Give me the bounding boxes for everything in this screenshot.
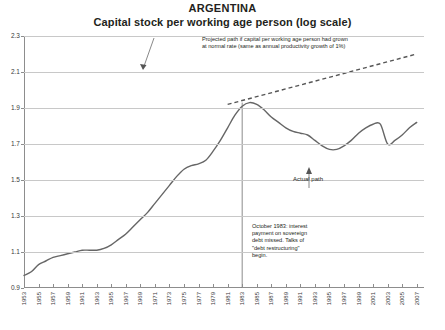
x-axis-tick-label: 1973 <box>166 292 172 305</box>
x-axis-tick-label: 1961 <box>79 292 85 305</box>
gridline <box>24 216 424 217</box>
x-axis-tick-label: 1963 <box>94 292 100 305</box>
x-axis-tick-label: 1987 <box>268 292 274 305</box>
x-axis-tick <box>315 284 316 288</box>
x-axis-tick <box>286 284 287 288</box>
y-axis-tick <box>21 144 24 145</box>
x-axis-tick-label: 1969 <box>137 292 143 305</box>
y-axis-tick <box>21 72 24 73</box>
x-axis-tick <box>155 284 156 288</box>
x-axis-tick <box>300 284 301 288</box>
y-axis-tick <box>21 36 24 37</box>
y-axis-tick <box>21 252 24 253</box>
y-axis-tick-label: 1.7 <box>0 140 20 147</box>
x-axis-tick <box>82 284 83 288</box>
series-actual-path <box>24 103 417 276</box>
x-axis-tick <box>402 284 403 288</box>
plot-area: 0.91.11.31.51.71.92.12.3 <box>24 36 424 288</box>
y-axis-tick <box>21 108 24 109</box>
annotation-default-event: October 1983: interest payment on sovere… <box>252 223 310 259</box>
x-axis-tick <box>126 284 127 288</box>
x-axis-tick-label: 2001 <box>370 292 376 305</box>
annotation-actual-path: Actual path <box>293 176 345 183</box>
x-axis-tick-label: 1995 <box>326 292 332 305</box>
x-axis-tick <box>373 284 374 288</box>
gridline <box>24 108 424 109</box>
x-axis-labels: 1953195519571959196119631965196719691971… <box>24 290 424 328</box>
x-axis-tick <box>359 284 360 288</box>
x-axis-tick <box>184 284 185 288</box>
y-axis-tick-label: 0.9 <box>0 284 20 291</box>
x-axis-tick <box>169 284 170 288</box>
gridline <box>24 144 424 145</box>
gridline <box>24 252 424 253</box>
gridline <box>24 180 424 181</box>
x-axis-tick <box>329 284 330 288</box>
x-axis-tick-label: 1983 <box>239 292 245 305</box>
chart-root: ARGENTINA Capital stock per working age … <box>0 0 445 330</box>
projected-leader-line <box>143 38 154 69</box>
x-axis-tick-label: 1971 <box>152 292 158 305</box>
x-axis-tick <box>53 284 54 288</box>
x-axis-tick <box>271 284 272 288</box>
x-axis-tick-label: 1979 <box>210 292 216 305</box>
x-axis-tick <box>242 284 243 288</box>
x-axis-tick <box>111 284 112 288</box>
gridline <box>24 72 424 73</box>
x-axis-tick <box>257 284 258 288</box>
page-title: ARGENTINA <box>0 2 445 15</box>
series-layer <box>24 36 424 288</box>
y-axis-tick-label: 1.1 <box>0 248 20 255</box>
x-axis-tick <box>39 284 40 288</box>
chart-subtitle: Capital stock per working age person (lo… <box>0 15 445 29</box>
x-axis-tick <box>228 284 229 288</box>
x-axis-tick-label: 1967 <box>123 292 129 305</box>
x-axis-tick <box>199 284 200 288</box>
x-axis-tick-label: 1993 <box>312 292 318 305</box>
x-axis-tick-label: 1991 <box>297 292 303 305</box>
x-axis-tick <box>344 284 345 288</box>
x-axis-tick-label: 1975 <box>181 292 187 305</box>
series-projected-path <box>228 54 417 104</box>
x-axis-tick-label: 2003 <box>385 292 391 305</box>
x-axis-tick-label: 1989 <box>283 292 289 305</box>
x-axis-tick <box>213 284 214 288</box>
x-axis-tick-label: 1985 <box>254 292 260 305</box>
x-axis-tick-label: 1997 <box>341 292 347 305</box>
x-axis-tick <box>24 284 25 288</box>
projected-leader-arrowhead <box>140 64 147 70</box>
x-axis-tick-label: 1953 <box>21 292 27 305</box>
annotation-projected-path: Projected path if capital per working ag… <box>202 36 352 50</box>
y-axis-tick <box>21 180 24 181</box>
x-axis-tick <box>68 284 69 288</box>
x-axis-tick-label: 1977 <box>196 292 202 305</box>
y-axis-tick-label: 2.1 <box>0 68 20 75</box>
x-axis-tick-label: 1999 <box>356 292 362 305</box>
y-axis-tick <box>21 216 24 217</box>
actual-leader-arrowhead <box>306 167 312 174</box>
x-axis-tick-label: 1957 <box>50 292 56 305</box>
y-axis-tick-label: 2.3 <box>0 32 20 39</box>
x-axis-tick <box>388 284 389 288</box>
chart-title-block: ARGENTINA Capital stock per working age … <box>0 2 445 29</box>
x-axis-tick-label: 1959 <box>65 292 71 305</box>
y-axis-tick-label: 1.3 <box>0 212 20 219</box>
x-axis-tick-label: 1955 <box>36 292 42 305</box>
x-axis-tick-label: 1965 <box>108 292 114 305</box>
x-axis-tick-label: 2007 <box>414 292 420 305</box>
x-axis-tick-label: 2005 <box>399 292 405 305</box>
x-axis-tick <box>140 284 141 288</box>
y-axis-tick-label: 1.9 <box>0 104 20 111</box>
x-axis-tick <box>97 284 98 288</box>
x-axis-tick-label: 1981 <box>225 292 231 305</box>
x-axis-tick <box>417 284 418 288</box>
y-axis-tick <box>21 288 24 289</box>
y-axis-tick-label: 1.5 <box>0 176 20 183</box>
